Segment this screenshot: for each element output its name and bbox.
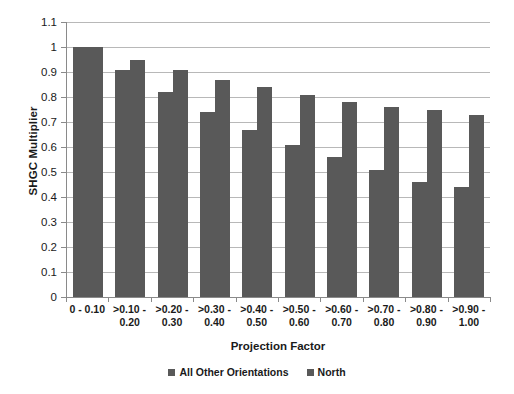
- bar: [369, 170, 384, 298]
- bar-group: [405, 22, 447, 297]
- x-axis-tick-label-line: 0.90: [405, 316, 447, 329]
- bar: [158, 92, 173, 297]
- x-axis-tick-label-line: >0.10 -: [108, 303, 150, 316]
- bar: [384, 107, 399, 297]
- y-axis-tick-label: 0: [51, 291, 57, 303]
- y-axis-tick-label: 0.2: [41, 241, 57, 253]
- bar: [215, 80, 230, 298]
- x-axis-tick-label-line: >0.50 -: [278, 303, 320, 316]
- y-axis-tick-label: 0.9: [41, 66, 57, 78]
- x-axis-tick-label: >0.50 -0.60: [278, 303, 320, 329]
- x-axis-tick-label-line: >0.90 -: [448, 303, 490, 316]
- x-axis-tick-label-line: 0.30: [151, 316, 193, 329]
- x-axis-tick-label-line: >0.20 -: [151, 303, 193, 316]
- bar: [285, 145, 300, 298]
- bar: [200, 112, 215, 297]
- bar: [454, 187, 469, 297]
- x-axis-tick-label-line: >0.70 -: [363, 303, 405, 316]
- bar-chart: SHGC Multiplier 1.110.90.80.70.60.50.40.…: [0, 0, 514, 394]
- x-axis-tick-mark: [236, 297, 237, 302]
- bar: [173, 70, 188, 298]
- y-axis-tick-label: 0.1: [41, 266, 57, 278]
- x-axis-tick-mark: [108, 297, 109, 302]
- y-axis-tick-label: 1: [51, 41, 57, 53]
- x-axis-tick-mark: [448, 297, 449, 302]
- x-axis-tick-mark: [320, 297, 321, 302]
- x-axis-tick-label-line: 0.60: [278, 316, 320, 329]
- x-axis-tick-label-line: >0.60 -: [320, 303, 362, 316]
- x-axis-tick-mark: [66, 297, 67, 302]
- x-axis-tick-mark: [193, 297, 194, 302]
- legend-swatch-icon: [168, 369, 175, 376]
- x-axis-tick-label: >0.30 -0.40: [193, 303, 235, 329]
- x-axis-tick-label: >0.70 -0.80: [363, 303, 405, 329]
- bar: [257, 87, 272, 297]
- x-axis-tick-label: >0.10 -0.20: [108, 303, 150, 329]
- x-axis-tick-label: 0 - 0.10: [66, 303, 108, 329]
- bar-group: [152, 22, 194, 297]
- bars-layer: [67, 22, 490, 297]
- legend-entry[interactable]: All Other Orientations: [168, 366, 288, 378]
- x-axis-tick-label-line: >0.40 -: [236, 303, 278, 316]
- x-axis-tick-mark: [405, 297, 406, 302]
- bar-group: [363, 22, 405, 297]
- x-axis-tick-label: >0.20 -0.30: [151, 303, 193, 329]
- y-axis-tick-label: 0.4: [41, 191, 57, 203]
- bar-group: [194, 22, 236, 297]
- x-axis-tick-label-line: 0.70: [320, 316, 362, 329]
- bar: [242, 130, 257, 298]
- x-axis-tick-label-line: 0.40: [193, 316, 235, 329]
- x-axis-tick-label: >0.40 -0.50: [236, 303, 278, 329]
- y-axis-tick-label: 0.3: [41, 216, 57, 228]
- x-axis-tick-label-line: >0.80 -: [405, 303, 447, 316]
- bar-group: [236, 22, 278, 297]
- bar-group: [67, 22, 109, 297]
- x-axis-tick-mark: [363, 297, 364, 302]
- x-axis-tick-label: >0.80 -0.90: [405, 303, 447, 329]
- x-axis-tick-mark: [278, 297, 279, 302]
- bar: [300, 95, 315, 298]
- bar-group: [109, 22, 151, 297]
- x-axis-title: Projection Factor: [66, 340, 490, 352]
- bar: [327, 157, 342, 297]
- y-axis-tick-label: 0.6: [41, 141, 57, 153]
- y-axis-ticks: 1.110.90.80.70.60.50.40.30.20.10: [0, 22, 66, 297]
- x-axis-labels: 0 - 0.10>0.10 -0.20>0.20 -0.30>0.30 -0.4…: [66, 303, 490, 329]
- bar-group: [278, 22, 320, 297]
- bar: [73, 47, 88, 297]
- bar-group: [321, 22, 363, 297]
- x-axis-tick-label-line: 0.20: [108, 316, 150, 329]
- bar: [130, 60, 145, 298]
- x-axis-tick-label-line: 0.50: [236, 316, 278, 329]
- y-axis-tick-label: 0.7: [41, 116, 57, 128]
- chart-legend: All Other OrientationsNorth: [0, 366, 514, 378]
- x-axis-tick-label: >0.90 -1.00: [448, 303, 490, 329]
- bar: [115, 70, 130, 298]
- legend-swatch-icon: [307, 369, 314, 376]
- legend-label: All Other Orientations: [179, 366, 288, 378]
- y-axis-tick-label: 0.5: [41, 166, 57, 178]
- plot-area: [66, 22, 490, 297]
- legend-entry[interactable]: North: [307, 366, 346, 378]
- x-axis-tick-label: >0.60 -0.70: [320, 303, 362, 329]
- x-axis-tick-label-line: 1.00: [448, 316, 490, 329]
- y-axis-tick-label: 1.1: [41, 16, 57, 28]
- bar: [88, 47, 103, 297]
- bar: [342, 102, 357, 297]
- bar: [412, 182, 427, 297]
- x-axis-tick-label-line: 0.80: [363, 316, 405, 329]
- x-axis-tick-label-line: 0 - 0.10: [66, 303, 108, 316]
- bar: [469, 115, 484, 298]
- y-axis-tick-label: 0.8: [41, 91, 57, 103]
- x-axis-tick-mark: [151, 297, 152, 302]
- x-axis-tick-label-line: >0.30 -: [193, 303, 235, 316]
- legend-label: North: [318, 366, 346, 378]
- bar-group: [448, 22, 490, 297]
- bar: [427, 110, 442, 298]
- x-axis-tick-mark: [490, 297, 491, 302]
